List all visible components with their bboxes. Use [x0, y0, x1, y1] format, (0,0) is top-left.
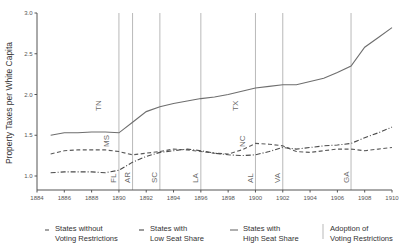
y-tick-label: 2.0 [24, 92, 33, 98]
x-tick-label: 1892 [140, 195, 154, 201]
x-tick-label: 1904 [303, 195, 317, 201]
legend-label-line1: States with [243, 224, 280, 233]
x-tick-label: 1884 [30, 195, 44, 201]
legend-label-line1: Adoption of [330, 224, 369, 233]
y-tick-label: 1.5 [24, 132, 33, 138]
x-tick-label: 1902 [276, 195, 290, 201]
state-label-FL: FL [109, 173, 118, 183]
x-tick-label: 1900 [249, 195, 263, 201]
chart-legend: States withoutVoting RestrictionsStates … [45, 224, 393, 243]
x-tick-label: 1890 [112, 195, 126, 201]
y-tick-label: 2.5 [24, 51, 33, 57]
series-line-solid [51, 28, 392, 136]
y-axis-title: Property Taxes per White Capita [4, 42, 14, 164]
legend-label-line1: States with [150, 224, 187, 233]
x-tick-label: 1888 [85, 195, 99, 201]
x-tick-label: 1886 [58, 195, 72, 201]
property-tax-line-chart: FLMSTNARSCLAALNCTXVAGA 1.01.52.02.53.0 1… [0, 0, 405, 252]
legend-label-line2: Voting Restrictions [55, 234, 118, 243]
y-tick-label: 3.0 [24, 10, 33, 16]
x-tick-label: 1894 [167, 195, 181, 201]
x-tick-label: 1898 [221, 195, 235, 201]
state-label-LA: LA [191, 173, 200, 183]
state-label-VA: VA [273, 172, 282, 183]
legend-label-line2: Low Seat Share [150, 234, 204, 243]
series-line-dashdot [51, 127, 392, 173]
x-tick-label: 1910 [385, 195, 399, 201]
state-label-TX: TX [231, 100, 240, 111]
state-label-SC: SC [150, 172, 159, 183]
x-tick-label: 1906 [331, 195, 345, 201]
state-label-TN: TN [94, 100, 103, 111]
x-tick-label: 1896 [194, 195, 208, 201]
y-tick-label: 1.0 [24, 173, 33, 179]
chart-container: FLMSTNARSCLAALNCTXVAGA 1.01.52.02.53.0 1… [0, 0, 405, 252]
plot-area: FLMSTNARSCLAALNCTXVAGA [51, 13, 392, 190]
state-label-NC: NC [238, 135, 247, 147]
state-label-AL: AL [246, 173, 255, 183]
data-series-group [51, 28, 392, 173]
state-label-MS: MS [102, 135, 111, 147]
state-label-AR: AR [123, 172, 132, 183]
legend-label-line1: States without [55, 224, 104, 233]
y-axis-ticks: 1.01.52.02.53.0 [24, 10, 37, 179]
state-label-GA: GA [342, 171, 351, 183]
x-tick-label: 1908 [358, 195, 372, 201]
legend-label-line2: Voting Restrictions [330, 234, 393, 243]
legend-label-line2: High Seat Share [243, 234, 299, 243]
x-axis-ticks: 1884188618881890189218941896189819001902… [30, 190, 399, 201]
